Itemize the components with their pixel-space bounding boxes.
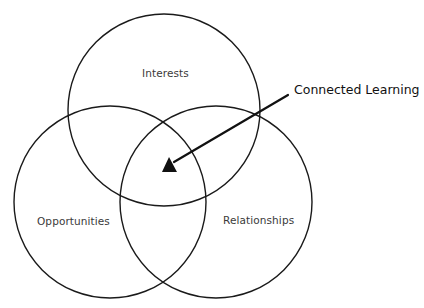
relationships-circle [120,106,312,298]
arrow-triangle-icon [162,157,177,172]
opportunities-label: Opportunities [37,216,110,227]
venn-diagram [0,0,424,308]
callout-arrow-line [174,95,288,162]
interests-circle [68,14,260,206]
opportunities-circle [14,106,206,298]
interests-label: Interests [142,68,189,79]
relationships-label: Relationships [223,215,294,226]
connected-learning-callout: Connected Learning [294,84,420,97]
